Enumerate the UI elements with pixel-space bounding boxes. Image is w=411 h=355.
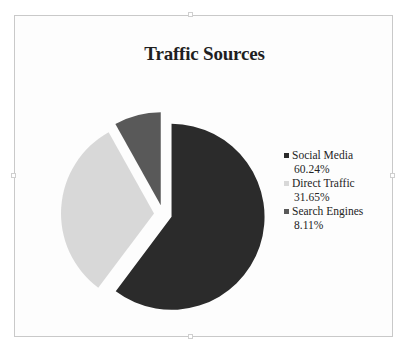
legend-entry-social-media[interactable]: Social Media 60.24% [284,149,392,176]
legend-value: 8.11% [284,218,392,232]
legend-marker-icon [284,209,289,214]
legend-label: Search Engines [292,205,363,218]
legend-entry-direct-traffic[interactable]: Direct Traffic 31.65% [284,177,392,204]
chart-screenshot: Traffic Sources Social Media 60.24% Dire… [0,0,411,355]
legend-marker-icon [284,153,289,158]
legend-value: 60.24% [284,162,392,176]
resize-handle-top[interactable] [188,12,193,17]
chart-object-frame[interactable]: Traffic Sources Social Media 60.24% Dire… [14,15,393,337]
legend-label: Social Media [292,149,353,162]
resize-handle-right[interactable] [390,173,395,178]
chart-legend: Social Media 60.24% Direct Traffic 31.65… [284,149,392,233]
pie-slices [61,112,265,310]
resize-handle-left[interactable] [11,173,16,178]
legend-entry-search-engines[interactable]: Search Engines 8.11% [284,205,392,232]
legend-label: Direct Traffic [292,177,355,190]
legend-marker-icon [284,181,289,186]
legend-value: 31.65% [284,190,392,204]
pie-chart-svg[interactable] [49,58,279,308]
resize-handle-bottom[interactable] [188,334,193,339]
